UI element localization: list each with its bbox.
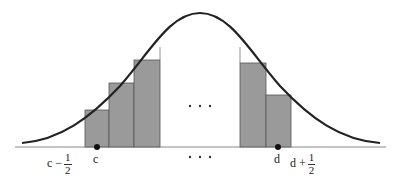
normal-curve — [22, 13, 380, 143]
right-histogram-bars — [240, 47, 291, 147]
axis-ellipsis — [189, 156, 211, 158]
bar-d — [266, 95, 291, 147]
point-d — [275, 144, 281, 150]
left-histogram-bars — [85, 47, 160, 147]
label-c-minus-half: c −12 — [47, 152, 72, 176]
label-c: c — [93, 153, 98, 165]
bar-d-minus-1 — [240, 63, 266, 147]
bar-c-plus-2 — [134, 60, 160, 147]
label-d-plus-half: d +12 — [290, 152, 315, 176]
label-d: d — [274, 153, 280, 165]
point-c — [94, 144, 100, 150]
middle-ellipsis — [189, 105, 211, 107]
